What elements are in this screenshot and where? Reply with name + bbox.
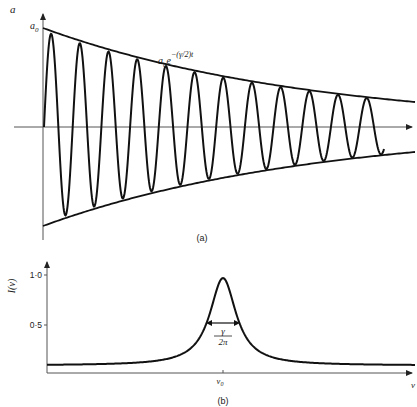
- lorentzian-curve: [47, 278, 415, 365]
- panel-b: I(ν) 1·0 0·5 ν0 ν γ 2π (b): [6, 262, 415, 406]
- panel-b-y-label: I(ν): [6, 278, 18, 294]
- panel-b-caption: (b): [218, 396, 229, 406]
- a0-label: a0: [30, 20, 39, 34]
- panel-a-y-label: a: [10, 3, 16, 15]
- damped-oscillation-curve: [44, 34, 384, 216]
- panel-b-x-label: ν: [411, 380, 415, 390]
- nu0-label: ν0: [217, 376, 224, 387]
- tick-label-0-5: 0·5: [30, 320, 43, 330]
- tick-label-1-0: 1·0: [30, 270, 43, 280]
- fwhm-numerator: γ: [221, 326, 225, 336]
- fwhm-denominator: 2π: [218, 337, 228, 347]
- figure: a a0 a0e−(γ/2)t (a) I(ν) 1·0 0·5 ν: [0, 0, 417, 407]
- panel-a-caption: (a): [197, 233, 208, 243]
- upper-envelope: [43, 28, 415, 102]
- panel-a: a a0 a0e−(γ/2)t (a): [10, 3, 415, 243]
